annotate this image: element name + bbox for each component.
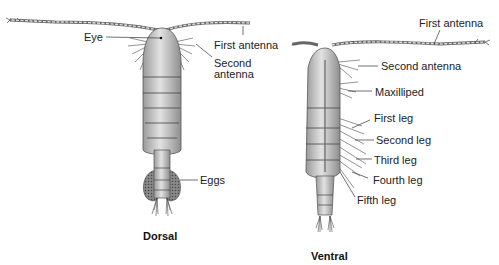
label-dorsal-first-antenna: First antenna <box>214 39 278 51</box>
ventral-caudal-setae <box>316 216 334 232</box>
dorsal-prosome <box>143 28 181 155</box>
label-second-leg: Second leg <box>376 134 431 146</box>
label-fourth-leg: Fourth leg <box>373 174 423 186</box>
label-third-leg: Third leg <box>374 154 417 166</box>
copepod-diagram: Eye First antenna Second antenna Eggs Do… <box>0 0 499 265</box>
dorsal-eye <box>160 37 163 40</box>
caption-ventral: Ventral <box>311 250 348 262</box>
label-first-leg: First leg <box>374 112 413 124</box>
label-second-antenna: Second antenna <box>381 60 461 72</box>
ventral-urosome <box>316 176 334 215</box>
label-dorsal-second-antenna-line2: antenna <box>214 68 254 80</box>
dorsal-urosome <box>154 150 170 198</box>
caption-dorsal: Dorsal <box>143 230 177 242</box>
label-eggs: Eggs <box>200 174 225 186</box>
label-ventral-first-antenna: First antenna <box>419 17 483 29</box>
label-fifth-leg: Fifth leg <box>357 194 396 206</box>
label-maxilliped: Maxilliped <box>375 86 424 98</box>
label-dorsal-eye: Eye <box>84 31 103 43</box>
ventral-prosome <box>306 48 340 178</box>
